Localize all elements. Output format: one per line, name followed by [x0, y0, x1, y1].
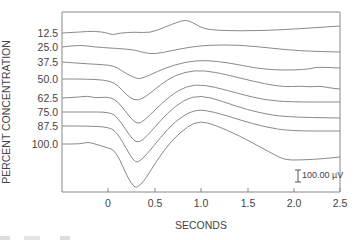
series-label: 75.0	[18, 106, 58, 118]
x-tick-label: 1.5	[241, 197, 256, 209]
series-label: 87.5	[18, 120, 58, 132]
y-axis-title: PERCENT CONCENTRATION	[0, 40, 12, 184]
trace-37.5	[62, 61, 340, 79]
scale-bar-label: 100.00 µV	[302, 170, 343, 180]
cropped-caption-fragment	[0, 236, 140, 240]
series-label: 62.5	[18, 92, 58, 104]
series-label: 100.0	[18, 138, 58, 150]
series-label: 25.0	[18, 41, 58, 53]
scale-bar-icon	[295, 170, 301, 182]
trace-12.5	[62, 21, 340, 35]
series-label: 50.0	[18, 73, 58, 85]
trace-75.0	[62, 96, 340, 141]
x-axis-title: SECONDS	[175, 219, 227, 231]
x-tick-label: 1.0	[194, 197, 209, 209]
x-tick-label: 2.0	[287, 197, 302, 209]
x-tick-label: 0	[105, 197, 111, 209]
series-label: 37.5	[18, 56, 58, 68]
x-tick-label: 0.5	[148, 197, 163, 209]
series-label: 12.5	[18, 27, 58, 39]
trace-87.5	[62, 110, 340, 162]
x-axis-ticks	[108, 188, 340, 192]
trace-group	[62, 21, 340, 188]
trace-25.0	[62, 45, 340, 54]
x-tick-label: 2.5	[333, 197, 348, 209]
